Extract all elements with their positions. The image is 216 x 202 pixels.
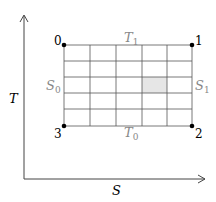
highlighted-cell bbox=[142, 77, 167, 93]
axes bbox=[20, 15, 205, 183]
y-axis-label: T bbox=[9, 91, 19, 106]
corner-label-3: 3 bbox=[54, 127, 62, 141]
ts-diagram: 0 1 2 3 T1 T0 S0 S1 T S bbox=[0, 0, 216, 202]
corner-dot-3 bbox=[62, 124, 67, 129]
corner-dot-1 bbox=[190, 43, 195, 48]
corner-dot-0 bbox=[62, 43, 67, 48]
corner-label-1: 1 bbox=[195, 34, 203, 48]
corner-label-0: 0 bbox=[54, 34, 62, 48]
x-axis-label: S bbox=[112, 183, 121, 198]
right-edge-label: S1 bbox=[195, 78, 210, 95]
top-edge-label: T1 bbox=[124, 30, 138, 47]
bottom-edge-label: T0 bbox=[124, 125, 139, 142]
grid bbox=[64, 45, 192, 126]
corner-dots bbox=[62, 43, 195, 129]
left-edge-label: S0 bbox=[46, 78, 61, 95]
diagram-canvas: 0 1 2 3 T1 T0 S0 S1 T S bbox=[0, 0, 216, 202]
corner-label-2: 2 bbox=[195, 127, 203, 141]
corner-dot-2 bbox=[190, 124, 195, 129]
